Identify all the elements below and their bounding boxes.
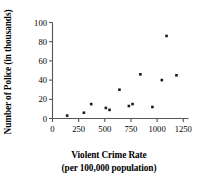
y-axis-tick-label: 0 xyxy=(43,114,47,124)
y-axis-tick-label: 60 xyxy=(38,56,47,66)
x-axis-title-line2: (per 100,000 population) xyxy=(16,163,202,173)
x-axis-tick-label: 500 xyxy=(98,124,111,134)
y-axis-tick-label: 40 xyxy=(38,75,47,85)
x-axis-title-line1: Violent Crime Rate xyxy=(16,150,202,160)
data-point xyxy=(118,88,121,91)
x-axis-tick-label: 1250 xyxy=(175,124,192,134)
x-axis-tick-label: 750 xyxy=(125,124,138,134)
x-axis-tick-label: 0 xyxy=(50,124,54,134)
plot-area: 020406080100025050075010001250 xyxy=(0,0,202,189)
x-axis-tick-label: 250 xyxy=(72,124,85,134)
data-point xyxy=(66,114,69,117)
data-point xyxy=(131,103,134,106)
y-axis-tick-label: 100 xyxy=(34,18,47,28)
y-axis-tick-label: 20 xyxy=(38,94,47,104)
data-point xyxy=(139,73,142,76)
data-point xyxy=(161,79,164,82)
data-point xyxy=(175,74,178,77)
scatter-chart: Number of Police (in thousands) 02040608… xyxy=(0,0,202,189)
x-axis-tick-label: 1000 xyxy=(149,124,166,134)
data-point xyxy=(105,107,108,110)
data-point xyxy=(151,106,154,109)
data-point xyxy=(128,105,131,108)
data-point xyxy=(83,111,86,114)
y-axis-tick-label: 80 xyxy=(38,37,47,47)
data-point xyxy=(108,109,111,112)
data-point xyxy=(90,103,93,106)
data-point xyxy=(165,35,168,38)
